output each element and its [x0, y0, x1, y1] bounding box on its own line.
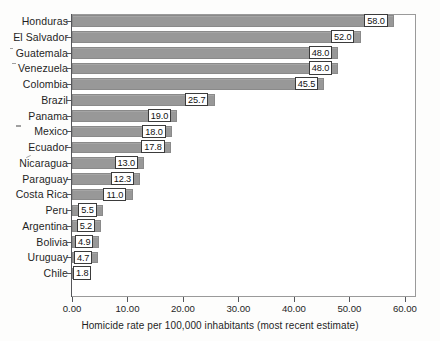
- scan-speck: [12, 63, 16, 64]
- category-label-venezuela: Venezuela: [18, 61, 68, 76]
- bar-value-label: 45.5: [295, 77, 318, 90]
- bar-row: Guatemala48.0: [0, 46, 440, 61]
- bar-value-label: 18.0: [142, 125, 165, 138]
- bar-value-label: 5.2: [77, 219, 95, 232]
- category-label-peru: Peru: [45, 203, 68, 218]
- x-tick-mark: [127, 297, 128, 302]
- bar-guatemala: [72, 47, 338, 59]
- category-label-bolivia: Bolivia: [36, 235, 68, 250]
- bar-row: Brazil25.7: [0, 93, 440, 108]
- x-tick-mark: [72, 297, 73, 302]
- category-label-uruguay: Uruguay: [28, 250, 68, 265]
- bar-row: Nicaragua13.0: [0, 156, 440, 171]
- x-tick-mark: [238, 297, 239, 302]
- bar-row: Argentina5.2: [0, 219, 440, 234]
- bar-value-label: 11.0: [103, 188, 126, 201]
- bar-row: Ecuador17.8: [0, 140, 440, 155]
- bar-row: Panama19.0: [0, 109, 440, 124]
- category-label-mexico: Mexico: [34, 124, 68, 139]
- bar-row: Paraguay12.3: [0, 172, 440, 187]
- bar-value-label: 52.0: [331, 30, 354, 43]
- category-label-costa-rica: Costa Rica: [16, 187, 68, 202]
- x-tick-mark: [183, 297, 184, 302]
- category-label-argentina: Argentina: [22, 219, 68, 234]
- x-tick-mark: [405, 297, 406, 302]
- x-axis-ticks: 0.0010.0020.0030.0040.0050.0060.00: [0, 297, 440, 319]
- bar-row: Peru5.5: [0, 203, 440, 218]
- bar-value-label: 12.3: [111, 172, 134, 185]
- bar-value-label: 1.8: [73, 266, 91, 279]
- bar-row: Costa Rica11.0: [0, 187, 440, 202]
- bar-row: El Salvador52.0: [0, 30, 440, 45]
- category-label-chile: Chile: [44, 266, 68, 281]
- x-tick-mark: [349, 297, 350, 302]
- scan-speck: [10, 48, 13, 49]
- x-tick-label: 20.00: [171, 303, 195, 314]
- bar-value-label: 17.8: [141, 140, 164, 153]
- bar-value-label: 5.5: [78, 203, 96, 216]
- x-tick-mark: [294, 297, 295, 302]
- category-label-paraguay: Paraguay: [22, 172, 68, 187]
- bar-colombia: [72, 78, 324, 90]
- bar-rows: Honduras58.0El Salvador52.0Guatemala48.0…: [0, 14, 440, 282]
- x-axis-title: Homicide rate per 100,000 inhabitants (m…: [0, 320, 440, 331]
- bar-row: Bolivia4.9: [0, 235, 440, 250]
- x-tick-label: 60.00: [393, 303, 417, 314]
- bar-row: Mexico18.0: [0, 124, 440, 139]
- x-tick-label: 10.00: [115, 303, 139, 314]
- bar-row: Colombia45.5: [0, 77, 440, 92]
- bar-value-label: 48.0: [309, 61, 332, 74]
- bar-value-label: 48.0: [309, 46, 332, 59]
- category-label-panama: Panama: [28, 109, 68, 124]
- x-tick-label: 40.00: [282, 303, 306, 314]
- x-tick-label: 0.00: [63, 303, 82, 314]
- bar-value-label: 19.0: [148, 109, 171, 122]
- bar-value-label: 4.9: [75, 235, 93, 248]
- scan-speck: [16, 125, 21, 127]
- x-tick-label: 50.00: [337, 303, 361, 314]
- bar-honduras: [72, 15, 394, 27]
- bar-value-label: 58.0: [364, 14, 387, 27]
- x-tick-label: 30.00: [226, 303, 250, 314]
- bar-venezuela: [72, 63, 338, 75]
- bar-value-label: 25.7: [185, 93, 208, 106]
- bar-value-label: 13.0: [115, 156, 138, 169]
- category-label-ecuador: Ecuador: [28, 140, 68, 155]
- bar-row: Honduras58.0: [0, 14, 440, 29]
- bar-row: Venezuela48.0: [0, 61, 440, 76]
- bar-row: Chile1.8: [0, 266, 440, 281]
- category-label-brazil: Brazil: [41, 93, 68, 108]
- category-label-colombia: Colombia: [23, 77, 68, 92]
- scan-speck: [17, 33, 21, 34]
- homicide-rate-bar-chart: Honduras58.0El Salvador52.0Guatemala48.0…: [0, 0, 440, 341]
- category-label-honduras: Honduras: [22, 14, 68, 29]
- bar-el-salvador: [72, 31, 361, 43]
- bar-value-label: 4.7: [74, 251, 92, 264]
- bar-row: Uruguay4.7: [0, 250, 440, 265]
- category-label-guatemala: Guatemala: [16, 46, 68, 61]
- category-label-el-salvador: El Salvador: [13, 30, 68, 45]
